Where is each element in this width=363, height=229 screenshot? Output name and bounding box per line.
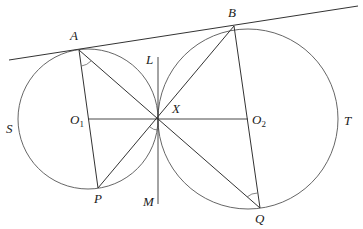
geometry-diagram: A B L X O1 O2 S T P M Q — [0, 0, 363, 229]
segment-a-q — [79, 50, 260, 208]
label-o1: O1 — [70, 112, 84, 129]
label-q: Q — [255, 211, 265, 226]
label-s: S — [6, 121, 13, 136]
label-x: X — [171, 101, 181, 116]
label-b: B — [228, 5, 236, 20]
tangent-line-ab — [9, 6, 358, 60]
label-t: T — [344, 113, 352, 128]
segment-b-p — [98, 26, 234, 188]
label-a: A — [69, 28, 78, 43]
angle-mark-q — [247, 193, 258, 197]
label-m: M — [142, 194, 155, 209]
label-o2: O2 — [252, 112, 266, 129]
label-l: L — [145, 52, 153, 67]
label-p: P — [93, 191, 102, 206]
angle-mark-a — [82, 61, 92, 66]
